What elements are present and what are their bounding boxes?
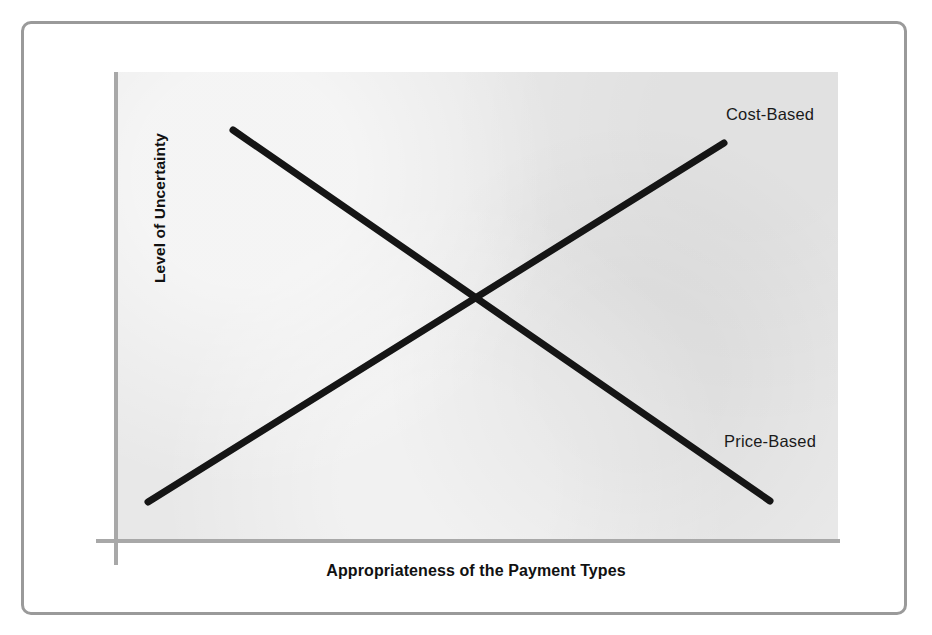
series-lines-group [0, 0, 932, 635]
chart-canvas: Cost-Based Price-Based Appropriateness o… [0, 0, 932, 635]
y-axis-title: Level of Uncertainty [151, 101, 169, 316]
series-line-price-based [233, 130, 770, 501]
series-line-cost-based [148, 143, 724, 502]
x-axis-title: Appropriateness of the Payment Types [114, 562, 838, 580]
series-label-cost-based: Cost-Based [726, 105, 814, 124]
series-label-price-based: Price-Based [724, 432, 816, 451]
